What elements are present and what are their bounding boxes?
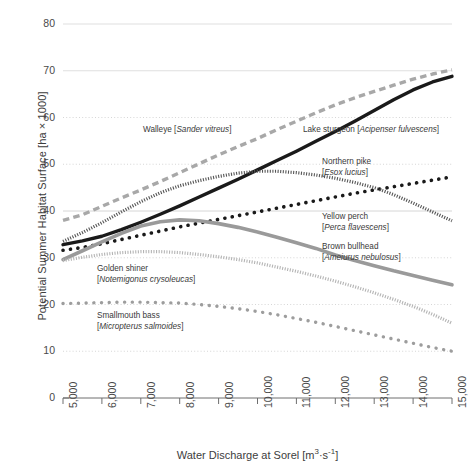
annotation-common-name: Walleye [ [143,125,176,134]
x-tick-label: 11,000 [300,377,312,408]
series-line-northern-pike [63,177,452,250]
x-tick-label: 8,000 [184,382,196,408]
annotation-common-name: Golden shiner [97,264,195,275]
annotation-scientific-name: Sander vitreus [176,125,229,134]
series-line-lake-sturgeon [63,76,452,244]
x-tick-label: 6,000 [106,382,118,408]
annotation-common-name: Yellow perch [322,212,389,223]
x-tick-label: 14,000 [417,376,429,408]
annotation-common-name: Lake sturgeon [ [303,125,359,134]
annotation-common-name: Northern pike [322,157,371,168]
annotation-northern-pike: Northern pike[Esox lucius] [322,157,371,179]
x-tick-label: 5,000 [67,382,79,408]
annotation-brown-bullhead: Brown bullhead[Ameiurus nebulosus] [322,242,401,264]
x-tick-label: 10,000 [262,376,274,408]
annotation-common-name: Smallmouth bass [97,311,183,322]
annotation-scientific-name: Esox lucius [324,168,365,177]
series-layer [63,70,452,351]
x-tick-label: 13,000 [378,376,390,408]
axis-lines [63,398,452,404]
annotation-golden-shiner: Golden shiner[Notemigonus crysoleucas] [97,264,195,286]
annotation-lake-sturgeon: Lake sturgeon [Acipenser fulvescens] [303,125,439,136]
x-axis-label: Water Discharge at Sorel [m3·s-1] [63,447,452,461]
annotation-scientific-name: Notemigonus crysoleucas [99,275,193,284]
annotation-smallmouth-bass: Smallmouth bass[Micropterus salmoides] [97,311,183,333]
series-line-walleye [63,70,452,221]
y-axis-label: Potential Summer Habitat Surface [ha × 1… [36,16,48,396]
annotation-scientific-name: Micropterus salmoides [99,322,181,331]
annotation-walleye: Walleye [Sander vitreus] [143,125,231,136]
annotation-scientific-name: Acipenser fulvescens [359,125,436,134]
annotation-yellow-perch: Yellow perch[Perca flavescens] [322,212,389,234]
x-tick-label: 7,000 [145,382,157,408]
x-tick-label: 12,000 [339,376,351,408]
annotation-scientific-name: Ameiurus nebulosus [324,253,398,262]
x-tick-label: 15,000 [456,376,468,408]
annotation-scientific-name: Perca flavescens [324,223,386,232]
annotation-common-name: Brown bullhead [322,242,401,253]
x-tick-label: 9,000 [223,382,235,408]
